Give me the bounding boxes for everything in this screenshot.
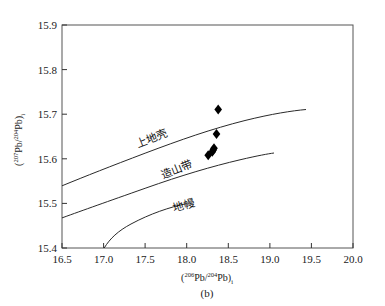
figure-caption: (b) [201, 287, 214, 300]
pb-isotope-scatter-chart: 15.4 15.5 15.6 15.7 15.8 15.9 16.5 17.0 … [0, 0, 385, 306]
y-axis-title-close: Pb) [13, 116, 25, 130]
annotation-upper-crust: 上地壳 [134, 125, 170, 150]
x-tick-label: 18.5 [219, 253, 239, 265]
upper-crust-curve [62, 110, 306, 186]
figure-container: 15.4 15.5 15.6 15.7 15.8 15.9 16.5 17.0 … [0, 0, 385, 306]
y-axis-title: (207Pb/204Pb)i [12, 114, 26, 166]
x-tick-label: 18.0 [177, 253, 197, 265]
y-tick-label: 15.7 [38, 108, 58, 120]
y-tick-labels: 15.4 15.5 15.6 15.7 15.8 15.9 [38, 19, 58, 254]
x-tick-label: 19.0 [260, 253, 280, 265]
y-axis-title-sub-i: i [19, 114, 26, 116]
x-tick-label: 17.5 [135, 253, 155, 265]
x-tick-label: 17.0 [94, 253, 114, 265]
x-axis-title: (206Pb/204Pb)i [181, 271, 233, 285]
x-tick-label: 16.5 [52, 253, 72, 265]
x-axis-title-sub-i: i [231, 278, 233, 285]
x-tick-labels: 16.5 17.0 17.5 18.0 18.5 19.0 19.5 20.0 [52, 253, 363, 265]
x-axis-title-close: Pb) [217, 272, 231, 284]
x-tick-label: 20.0 [343, 253, 363, 265]
data-point-markers [204, 104, 222, 160]
y-tick-label: 15.6 [38, 153, 58, 165]
data-point-marker [214, 104, 222, 114]
y-tick-label: 15.8 [38, 64, 58, 76]
x-axis-title-mid: Pb/ [194, 272, 208, 283]
data-point-marker [213, 129, 221, 139]
plot-frame [62, 25, 353, 248]
annotation-mantle: 地幔 [171, 196, 196, 215]
y-tick-marks [62, 25, 67, 248]
y-axis-title-mid: Pb/ [13, 139, 24, 153]
y-tick-label: 15.9 [38, 19, 58, 31]
x-tick-label: 19.5 [302, 253, 322, 265]
y-tick-label: 15.5 [38, 197, 58, 209]
